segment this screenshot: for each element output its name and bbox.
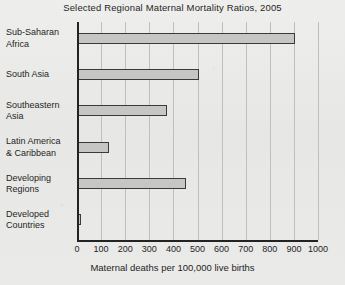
category-label: South Asia [6,69,76,81]
x-tick-label: 1000 [308,244,328,254]
x-tick-label: 900 [286,244,301,254]
gridline [270,22,271,240]
category-label-line: Southeastern [6,100,76,112]
x-tick-label: 600 [214,244,229,254]
gridline [173,22,174,240]
category-label-line: Asia [6,111,76,123]
category-label: Latin America& Caribbean [6,136,76,159]
x-tick-label: 200 [118,244,133,254]
chart-title: Selected Regional Maternal Mortality Rat… [0,2,345,13]
bar [78,69,199,80]
x-tick-label: 400 [166,244,181,254]
gridline [294,22,295,240]
category-label-line: Developed [6,209,76,221]
x-tick-label: 100 [94,244,109,254]
x-tick-label: 0 [74,244,79,254]
category-label-line: Africa [6,39,76,51]
bar [78,105,167,116]
bar [78,33,295,44]
category-label-line: Countries [6,220,76,232]
x-axis-line [77,240,318,242]
category-label: DevelopingRegions [6,173,76,196]
category-label-line: Developing [6,173,76,185]
gridline [222,22,223,240]
x-tick-label: 800 [262,244,277,254]
plot-area [77,22,318,240]
bar [78,178,186,189]
category-label-line: & Caribbean [6,148,76,160]
gridline [101,22,102,240]
y-axis-line [77,22,79,241]
category-label: Sub-SaharanAfrica [6,27,76,50]
category-label: DevelopedCountries [6,209,76,232]
gridline [125,22,126,240]
category-label-line: South Asia [6,69,76,81]
gridline [198,22,199,240]
x-axis-title: Maternal deaths per 100,000 live births [0,262,345,273]
gridline [318,22,319,240]
bar [78,142,109,153]
x-tick-label: 500 [190,244,205,254]
category-label: SoutheasternAsia [6,100,76,123]
x-tick-label: 700 [238,244,253,254]
gridline [149,22,150,240]
category-label-line: Regions [6,184,76,196]
category-label-line: Sub-Saharan [6,27,76,39]
gridline [246,22,247,240]
x-tick-label: 300 [142,244,157,254]
category-label-line: Latin America [6,136,76,148]
chart-figure: Selected Regional Maternal Mortality Rat… [0,0,345,285]
